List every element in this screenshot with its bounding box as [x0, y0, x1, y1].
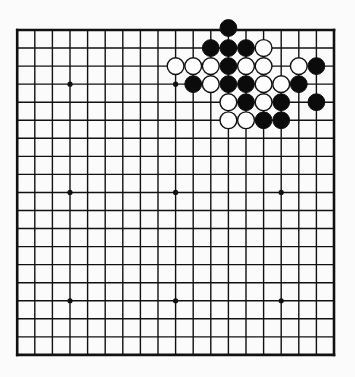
white-stone[interactable] — [202, 58, 219, 75]
white-stone[interactable] — [255, 58, 272, 75]
white-stone[interactable] — [185, 58, 202, 75]
black-stone[interactable] — [220, 76, 237, 93]
star-point — [67, 190, 72, 195]
black-stone[interactable] — [238, 76, 255, 93]
white-stone[interactable] — [220, 94, 237, 111]
black-stone[interactable] — [220, 40, 237, 57]
star-point — [279, 190, 284, 195]
star-point — [173, 190, 178, 195]
black-stone[interactable] — [273, 112, 290, 129]
go-board[interactable] — [0, 0, 355, 377]
white-stone[interactable] — [255, 76, 272, 93]
white-stone[interactable] — [273, 76, 290, 93]
black-stone[interactable] — [255, 112, 272, 129]
black-stone[interactable] — [238, 40, 255, 57]
white-stone[interactable] — [167, 58, 184, 75]
black-stone[interactable] — [308, 94, 325, 111]
white-stone[interactable] — [255, 40, 272, 57]
white-stone[interactable] — [220, 112, 237, 129]
white-stone[interactable] — [202, 76, 219, 93]
star-point — [67, 298, 72, 303]
black-stone[interactable] — [220, 58, 237, 75]
black-stone[interactable] — [290, 76, 307, 93]
black-stone[interactable] — [273, 94, 290, 111]
star-point — [173, 82, 178, 87]
black-stone[interactable] — [308, 58, 325, 75]
star-point — [67, 82, 72, 87]
star-point — [173, 298, 178, 303]
white-stone[interactable] — [255, 94, 272, 111]
star-point — [279, 298, 284, 303]
black-stone[interactable] — [185, 76, 202, 93]
black-stone[interactable] — [220, 20, 237, 37]
black-stone[interactable] — [238, 94, 255, 111]
black-stone[interactable] — [202, 40, 219, 57]
white-stone[interactable] — [238, 58, 255, 75]
white-stone[interactable] — [238, 112, 255, 129]
white-stone[interactable] — [290, 58, 307, 75]
